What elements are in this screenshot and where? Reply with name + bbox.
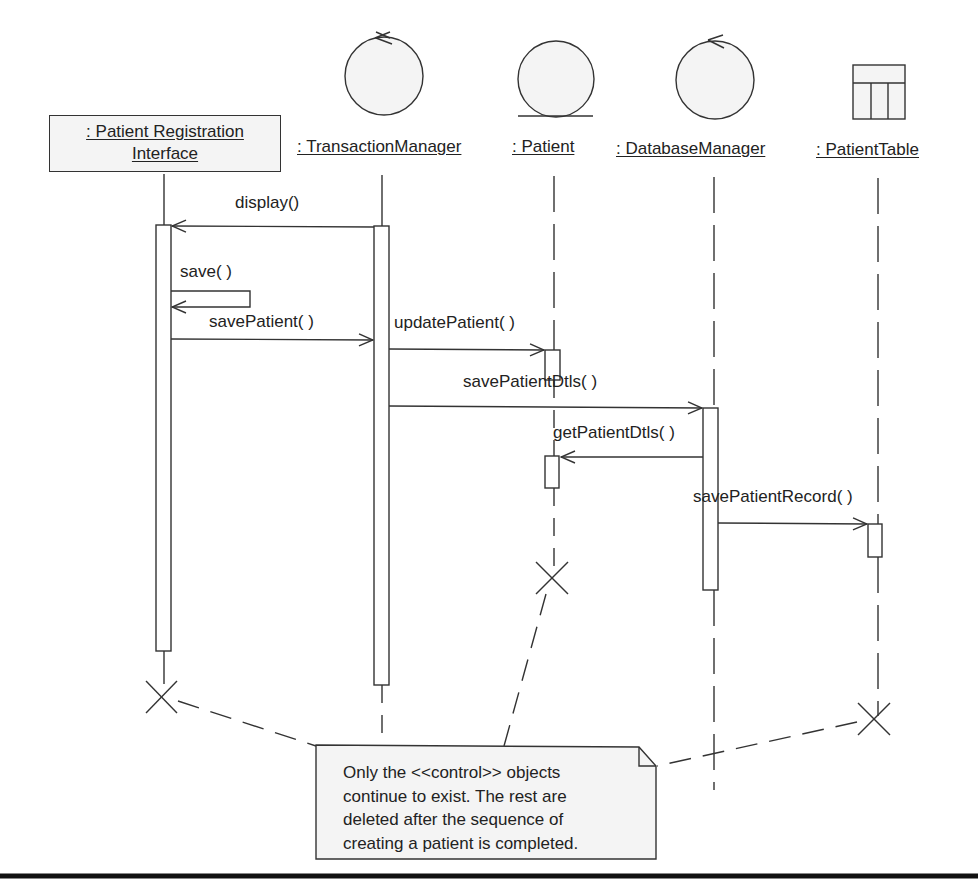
activation-patient-2 (545, 456, 559, 488)
message-save-patient-dtls (389, 406, 702, 408)
message-label-save: save( ) (180, 262, 232, 282)
message-save-patient-record (718, 523, 867, 524)
object-name-patient: : Patient (512, 137, 574, 157)
object-patient-registration-interface: : Patient Registration Interface (49, 115, 281, 172)
note-line-2: continue to exist. The rest are (343, 785, 656, 809)
note-anchor-patient (504, 594, 546, 746)
destroy-icon-table (858, 703, 890, 735)
note-anchor-pri (178, 701, 316, 746)
note-text: Only the <<control>> objects continue to… (316, 745, 656, 859)
destroy-icon-patient (536, 562, 568, 594)
object-name-transaction-manager: : TransactionManager (297, 137, 461, 157)
message-label-save-patient-dtls: savePatientDtls( ) (463, 372, 597, 392)
entity-icon-patient (518, 41, 594, 117)
message-label-save-patient-record: savePatientRecord( ) (693, 487, 853, 507)
destroy-icon-pri (146, 681, 177, 713)
control-icon-transaction-manager (345, 32, 423, 115)
object-name-pri-line2: Interface (132, 144, 198, 163)
message-label-update-patient: updatePatient( ) (394, 313, 515, 333)
note-anchor-table (657, 722, 857, 766)
message-display (172, 226, 374, 227)
message-save-patient (171, 339, 373, 340)
message-update-patient (389, 349, 544, 350)
table-icon-patient-table (853, 65, 905, 119)
object-name-patient-table: : PatientTable (816, 140, 919, 160)
object-name-pri-line1: : Patient Registration (86, 122, 244, 141)
note-line-3: deleted after the sequence of (343, 808, 656, 832)
object-name-database-manager: : DatabaseManager (616, 139, 765, 159)
note-line-1: Only the <<control>> objects (343, 761, 656, 785)
message-label-display: display() (235, 193, 299, 213)
message-save-self (171, 291, 250, 307)
activation-pri (156, 225, 171, 651)
message-label-get-patient-dtls: getPatientDtls( ) (553, 423, 675, 443)
note-line-4: creating a patient is completed. (343, 832, 656, 856)
activation-table (868, 524, 882, 557)
activation-tm (374, 226, 389, 685)
message-label-save-patient: savePatient( ) (209, 312, 314, 332)
control-icon-database-manager (676, 35, 754, 119)
